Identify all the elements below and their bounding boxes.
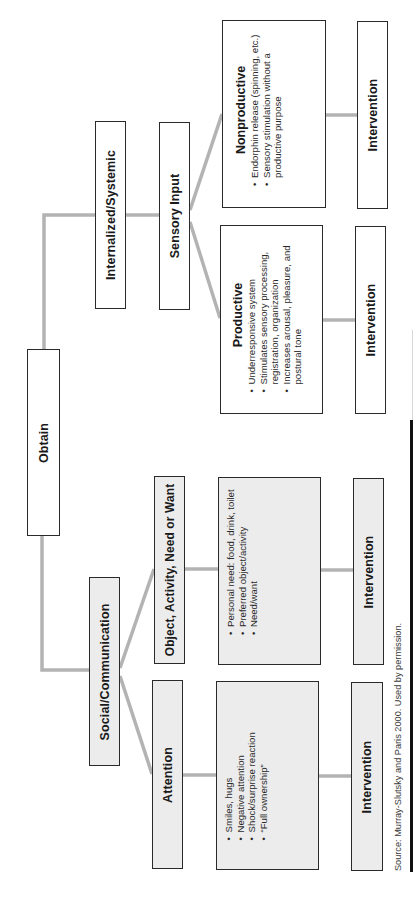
object-details-list: Personal need: food, drink, toilet Prefe… [224,487,259,635]
list-item: Smiles, hugs [222,691,234,840]
intervention-label: Intervention [360,682,374,871]
obtain-box: Obtain [27,349,60,536]
productive-heading: Productive [230,237,245,392]
nonproductive-list: Endorphin release (spinning, etc.) Senso… [249,34,284,186]
sensory-input-label: Sensory Input [168,122,182,310]
connector-social-object [120,569,154,668]
attention-intervention-box: Intervention [351,682,383,871]
object-details-content: Personal need: food, drink, toilet Prefe… [218,477,321,665]
list-item: Negative attention [234,691,246,840]
list-item: “Full ownership” [257,691,269,840]
caption-rule [410,420,413,872]
social-communication-label: Social/Communication [98,577,112,766]
internalized-systemic-label: Internalized/Systemic [104,121,118,309]
object-activity-label: Object, Activity, Need or Want [163,476,177,664]
list-item: Increases arousal, pleasure, and postura… [280,237,303,392]
caption-rule-faint [412,330,413,420]
sensory-input-box: Sensory Input [159,122,190,310]
productive-box: Productive Underresponsive system Stimul… [220,225,323,414]
object-intervention-box: Intervention [353,478,384,665]
nonproductive-heading: Nonproductive [234,34,249,186]
productive-list: Underresponsive system Stimulates sensor… [245,237,303,392]
object-details-box: Personal need: food, drink, toilet Prefe… [218,477,321,665]
intervention-label: Intervention [362,478,376,665]
object-activity-box: Object, Activity, Need or Want [154,476,185,664]
connector-sensory-productive [190,222,220,318]
list-item: Endorphin release (spinning, etc.) [249,34,261,186]
connector-obtain-social [42,536,89,670]
list-item: Preferred object/activity [236,487,248,635]
connector-social-attention [120,676,152,774]
social-communication-box: Social/Communication [89,577,120,766]
nonproductive-intervention-box: Intervention [357,21,388,209]
nonproductive-box: Nonproductive Endorphin release (spinnin… [222,20,326,208]
list-item: Stimulates sensory processing, registrat… [257,237,280,392]
connector-sensory-nonproductive [190,114,222,210]
internalized-systemic-box: Internalized/Systemic [95,121,126,309]
attention-label: Attention [161,680,175,869]
list-item: Personal need: food, drink, toilet [224,487,236,635]
attention-details-list: Smiles, hugs Negative attention Shock/su… [222,691,268,840]
list-item: Underresponsive system [245,237,257,392]
attention-details-box: Smiles, hugs Negative attention Shock/su… [216,681,319,870]
productive-intervention-box: Intervention [355,226,386,414]
intervention-label: Intervention [364,226,378,414]
list-item: Shock/surprise reaction [245,691,257,840]
source-caption: Source: Murray-Slutsky and Paris 2000. U… [393,623,403,871]
nonproductive-content: Nonproductive Endorphin release (spinnin… [222,20,326,208]
productive-content: Productive Underresponsive system Stimul… [220,225,323,414]
list-item: Sensory stimulation without a productive… [261,34,284,186]
list-item: Need/want [247,487,259,635]
obtain-label: Obtain [37,349,51,536]
intervention-label: Intervention [366,21,380,209]
attention-box: Attention [152,680,183,869]
connector-obtain-internalized [44,215,95,349]
attention-details-content: Smiles, hugs Negative attention Shock/su… [216,681,319,870]
